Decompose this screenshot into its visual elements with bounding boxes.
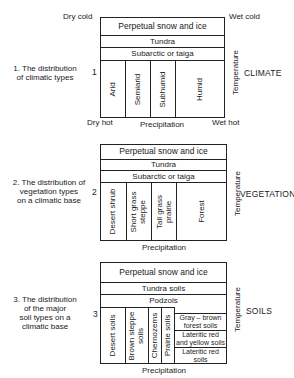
axis-temperature: Temperature — [233, 286, 242, 334]
caption-line: 1. The distribution — [8, 64, 82, 73]
row-podzols: Podzols — [100, 294, 227, 307]
col-humid: Humid — [175, 60, 225, 118]
col-subhumid: Subhumid — [150, 60, 175, 118]
caption-line: 3. The distribution — [8, 295, 82, 304]
caption-line: vegetation types — [6, 187, 92, 196]
col-arid: Arid — [100, 60, 125, 118]
caption-line: soil types on a — [8, 313, 82, 322]
row-tundra: Tundra — [100, 35, 225, 47]
col-short-grass-steppe: Short grasssteppe — [126, 182, 151, 241]
row-perpetual-snow: Perpetual snow and ice — [100, 17, 225, 35]
corner-wet-cold: Wet cold — [229, 12, 260, 21]
caption-soils: 3. The distribution of the major soil ty… — [8, 295, 82, 331]
row-taiga: Subarctic or taiga — [100, 47, 225, 60]
diagram-number: 1 — [92, 67, 97, 77]
row-tundra-soils: Tundra soils — [100, 282, 227, 294]
caption-line: 2. The distribution of — [6, 178, 92, 187]
row-tundra: Tundra — [100, 159, 227, 170]
row-perpetual-snow: Perpetual snow and ice — [100, 262, 227, 282]
row-taiga: Subarctic or taiga — [100, 170, 227, 182]
caption-line: of climatic types — [8, 73, 82, 82]
corner-wet-hot: Wet hot — [212, 118, 239, 127]
caption-line: on a climatic base — [6, 196, 92, 205]
label-vegetation: VEGETATION — [240, 189, 294, 199]
caption-climate: 1. The distribution of climatic types — [8, 64, 82, 82]
cell-gray-brown-forest-soils: Gray – brownforest soils — [174, 313, 227, 330]
diagram-number: 2 — [92, 187, 97, 197]
col-tall-grass-prairie: Tall grassprairie — [151, 182, 176, 241]
col-desert-shrub: Desert shrub — [100, 182, 126, 241]
axis-temperature: Temperature — [231, 49, 240, 97]
axis-precipitation: Precipitation — [142, 366, 186, 375]
axis-precipitation: Precipitation — [142, 243, 186, 252]
col-chernozems: Chernozems — [148, 307, 161, 364]
caption-vegetation: 2. The distribution of vegetation types … — [6, 178, 92, 205]
diagram-number: 3 — [93, 309, 98, 319]
corner-dry-hot: Dry hot — [87, 118, 113, 127]
corner-dry-cold: Dry cold — [63, 12, 92, 21]
col-semiarid: Semiarid — [125, 60, 150, 118]
col-desert-soils: Desert soils — [100, 307, 125, 364]
cell-lateritic-red-yellow-soils: Lateritic redand yellow soils — [174, 330, 227, 347]
caption-line: climatic base — [8, 322, 82, 331]
cell-lateritic-red-soils: Lateritic redsoils — [174, 347, 227, 364]
col-brown-steppe-soils: Brown steppesoils — [125, 307, 148, 364]
col-forest: Forest — [176, 182, 227, 241]
label-soils: SOILS — [246, 306, 272, 316]
label-climate: CLIMATE — [244, 68, 282, 78]
row-perpetual-snow: Perpetual snow and ice — [100, 144, 227, 159]
caption-line: of the major — [8, 304, 82, 313]
col-prairie-soils: Prairie soils — [161, 307, 174, 364]
axis-precipitation: Precipitation — [140, 120, 184, 129]
